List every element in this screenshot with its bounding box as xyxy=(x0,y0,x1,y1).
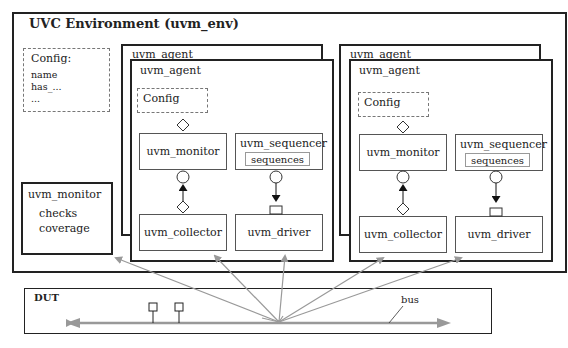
agent-1-sequences-label: sequences xyxy=(251,154,304,165)
agent-2-sequences: sequences xyxy=(465,153,530,167)
env-monitor-coverage: coverage xyxy=(39,222,90,235)
agent-2-config-label: Config xyxy=(364,96,401,109)
agent-1-label: uvm_agent xyxy=(140,64,201,77)
agent-1-driver: uvm_driver xyxy=(235,214,323,251)
agent-2-collector: uvm_collector xyxy=(359,216,447,253)
agent-2-monitor: uvm_monitor xyxy=(359,134,447,171)
agent-1-monitor-label: uvm_monitor xyxy=(146,145,219,158)
agent-2-collector-label: uvm_collector xyxy=(364,228,442,241)
env-monitor: uvm_monitor checks coverage xyxy=(21,182,113,255)
agent-2-monitor-label: uvm_monitor xyxy=(366,146,439,159)
agent-2-driver: uvm_driver xyxy=(455,216,543,253)
agent-1-sequences: sequences xyxy=(245,152,310,166)
agent-2-sequencer: uvm_sequencer sequences xyxy=(455,134,543,171)
agent-1-config: Config xyxy=(137,88,208,113)
env-monitor-title: uvm_monitor xyxy=(28,188,101,201)
env-title: UVC Environment (uvm_env) xyxy=(29,16,239,31)
agent-1-sequencer: uvm_sequencer sequences xyxy=(235,133,323,170)
agent-2-sequences-label: sequences xyxy=(471,155,524,166)
env-config: Config: name has_... ... xyxy=(23,48,110,112)
dut: DUT bus xyxy=(24,288,492,334)
bus-label: bus xyxy=(401,294,419,305)
agent-2-sequencer-label: uvm_sequencer xyxy=(460,138,547,151)
agent-1-collector-label: uvm_collector xyxy=(144,226,222,239)
agent-1-config-label: Config xyxy=(143,92,180,105)
env-monitor-checks: checks xyxy=(39,207,77,220)
env-config-item: ... xyxy=(31,93,40,104)
agent-1-monitor: uvm_monitor xyxy=(139,133,227,170)
agent-1-driver-label: uvm_driver xyxy=(247,226,310,239)
agent-1-sequencer-label: uvm_sequencer xyxy=(240,137,327,150)
agent-2-label: uvm_agent xyxy=(359,64,420,77)
agent-2-config: Config xyxy=(358,92,429,117)
dut-title: DUT xyxy=(34,292,59,303)
env-config-item: has_... xyxy=(31,81,61,92)
agent-1-collector: uvm_collector xyxy=(139,214,227,251)
agent-2-driver-label: uvm_driver xyxy=(467,228,530,241)
env-config-item: name xyxy=(31,69,57,80)
env-config-title: Config: xyxy=(31,52,71,65)
